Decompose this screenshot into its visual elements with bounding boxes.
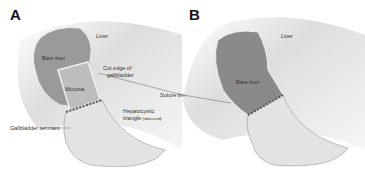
label-remnant: Gallbladder remnant: [10, 125, 60, 131]
panel-b: B Liver Bare liver: [183, 0, 365, 187]
label-liver: Liver: [281, 33, 293, 39]
panel-letter: B: [189, 6, 200, 23]
label-bare-liver: Bare liver: [236, 79, 259, 85]
illustration-b: [183, 0, 365, 187]
label-liver: Liver: [96, 33, 108, 39]
illustration-a: [0, 0, 182, 187]
label-hepatocystic-2: triangle (obscured): [123, 115, 162, 122]
label-cut-edge-2: gallbladder: [107, 72, 134, 78]
label-bare-liver: Bare liver: [42, 55, 65, 61]
label-mucosa: Mucosa: [65, 86, 84, 92]
label-cut-edge-1: Cut edge of: [103, 65, 131, 71]
label-obscured: (obscured): [143, 116, 162, 121]
label-hepatocystic-1: Hepatocystic: [123, 108, 155, 114]
panel-a: A Liver Bare liver Cut edge of gallbladd…: [0, 0, 182, 187]
panel-letter: A: [10, 6, 21, 23]
label-triangle: triangle: [123, 115, 141, 121]
